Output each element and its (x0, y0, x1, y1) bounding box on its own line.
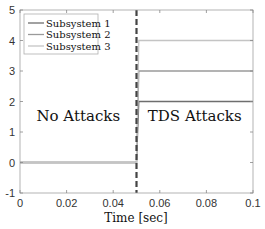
y-tick-label: 1 (9, 126, 15, 138)
y-tick-label: -1 (5, 187, 15, 199)
x-tick-label: 0.02 (56, 197, 77, 209)
x-tick-label: 0.1 (245, 197, 260, 209)
x-tick-label: 0.08 (196, 197, 217, 209)
legend-label-2: Subsystem 2 (46, 29, 111, 40)
x-tick-label: 0.04 (102, 197, 123, 209)
y-tick-label: 3 (9, 65, 15, 77)
y-tick-label: 5 (9, 4, 15, 16)
y-tick-label: 4 (9, 35, 15, 47)
legend-label-1: Subsystem 1 (46, 18, 111, 29)
annotation-no-attacks: No Attacks (36, 107, 120, 125)
y-tick-label: 2 (9, 96, 15, 108)
x-tick-label: 0.06 (149, 197, 170, 209)
line-chart: No AttacksTDS Attacks 00.020.040.060.080… (0, 0, 265, 229)
y-tick-label: 0 (9, 157, 15, 169)
x-tick-label: 0 (17, 197, 23, 209)
legend: Subsystem 1Subsystem 2Subsystem 3 (24, 14, 111, 54)
annotation-tds-attacks: TDS Attacks (148, 107, 242, 125)
legend-label-3: Subsystem 3 (46, 41, 111, 52)
x-axis-label: Time [sec] (104, 211, 167, 225)
